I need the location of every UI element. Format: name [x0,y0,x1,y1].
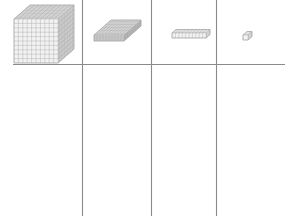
hundreds-flat-block [94,20,141,41]
tens-rod-block [172,30,210,39]
worksheet-canvas: Base Ten Blocks Place Value Chart [0,0,293,220]
place-value-chart [0,0,293,220]
thousands-cube-block [14,5,74,63]
ones-unit-block [243,32,252,41]
